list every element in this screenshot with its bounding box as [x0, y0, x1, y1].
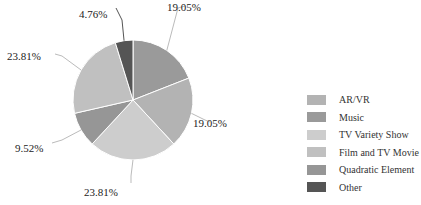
- label-quadratic: 9.52%: [15, 142, 43, 154]
- legend-label: Music: [339, 112, 364, 123]
- legend-item-film-and-tv-movie[interactable]: Film and TV Movie: [307, 144, 419, 162]
- pie-slices: [73, 40, 193, 160]
- label-film: 23.81%: [7, 50, 41, 62]
- legend-label: TV Variety Show: [339, 129, 409, 140]
- legend-swatch: [307, 112, 326, 122]
- legend-item-tv-variety-show[interactable]: TV Variety Show: [307, 126, 419, 144]
- legend-label: AR/VR: [339, 94, 370, 105]
- legend-item-other[interactable]: Other: [307, 179, 419, 197]
- leader-line: [55, 54, 81, 70]
- legend: AR/VR Music TV Variety Show Film and TV …: [307, 91, 419, 196]
- leader-line: [52, 130, 81, 143]
- leader-line: [131, 160, 133, 183]
- label-arvr: 19.05%: [193, 117, 227, 129]
- legend-item-quadratic-element[interactable]: Quadratic Element: [307, 161, 419, 179]
- leader-line: [116, 8, 124, 41]
- label-other: 4.76%: [79, 8, 107, 20]
- label-music: 19.05%: [167, 1, 201, 13]
- legend-label: Quadratic Element: [339, 164, 414, 175]
- legend-label: Other: [339, 182, 362, 193]
- legend-swatch: [307, 130, 326, 140]
- legend-swatch: [307, 147, 326, 157]
- legend-label: Film and TV Movie: [339, 147, 419, 158]
- legend-swatch: [307, 95, 326, 105]
- legend-item-arvr[interactable]: AR/VR: [307, 91, 419, 109]
- legend-swatch: [307, 165, 326, 175]
- label-tv-variety: 23.81%: [84, 186, 118, 198]
- legend-item-music[interactable]: Music: [307, 109, 419, 127]
- legend-swatch: [307, 182, 326, 192]
